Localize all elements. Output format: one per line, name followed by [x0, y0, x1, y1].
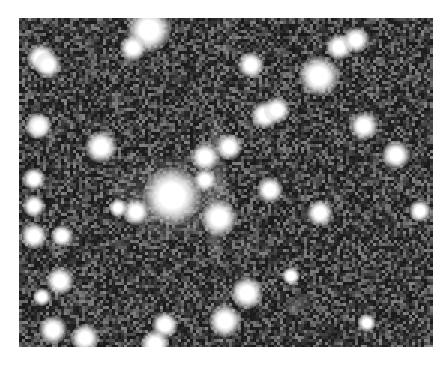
star — [282, 267, 300, 285]
star — [238, 52, 263, 77]
star — [143, 167, 201, 225]
star — [123, 199, 148, 224]
star — [264, 97, 289, 122]
astronomical-image — [19, 18, 433, 347]
star — [109, 199, 127, 217]
star — [21, 223, 46, 248]
star — [33, 288, 51, 306]
star — [343, 27, 368, 52]
star — [216, 134, 241, 159]
star — [409, 200, 431, 222]
star — [35, 52, 60, 77]
star — [358, 314, 376, 332]
star — [23, 195, 45, 217]
star — [120, 35, 145, 60]
star — [201, 200, 237, 236]
star — [307, 200, 332, 225]
star — [257, 177, 282, 202]
star — [51, 225, 73, 247]
star — [299, 56, 339, 96]
star — [28, 115, 50, 137]
star — [23, 168, 45, 190]
